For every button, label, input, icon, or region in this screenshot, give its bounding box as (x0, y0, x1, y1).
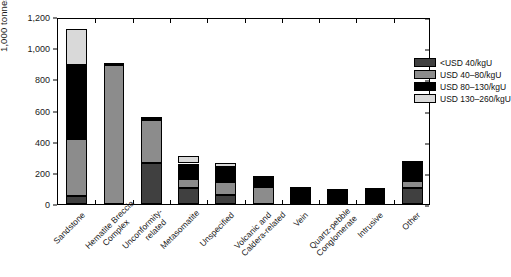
bar-segment (402, 188, 423, 204)
y-tick-label: 1,200 (6, 13, 50, 23)
x-axis-labels: SandstoneHematite BrecciaComplexUnconfor… (0, 206, 482, 277)
y-tick-mark-right (425, 19, 429, 20)
bar-1 (104, 63, 125, 204)
bar-7 (327, 190, 348, 204)
x-tick-mark-top (133, 19, 134, 23)
bar-segment (215, 195, 236, 204)
x-tick-mark-bottom (207, 200, 208, 204)
bar-0 (66, 29, 87, 204)
bar-segment (178, 188, 199, 204)
x-axis-label: Unconformity-related (120, 210, 168, 258)
x-tick-mark-top (95, 19, 96, 23)
bar-segment (365, 188, 386, 190)
y-tick-label: 800 (6, 75, 50, 85)
x-axis-label: Other (381, 210, 422, 251)
bar-segment (327, 189, 348, 191)
x-tick-mark-top (356, 19, 357, 23)
x-tick-mark-bottom (245, 200, 246, 204)
bar-segment (253, 187, 274, 204)
bar-segment (141, 117, 162, 120)
bar-segment (215, 182, 236, 195)
bar-segment (178, 164, 199, 180)
bar-segment (215, 167, 236, 183)
x-tick-mark-bottom (170, 200, 171, 204)
legend-swatch (414, 58, 436, 67)
legend-item: USD 80–130/kgU (414, 81, 415, 92)
y-tick-mark-right (425, 81, 429, 82)
plot-area: <USD 40/kgUUSD 40–80/kgUUSD 80–130/kgUUS… (57, 18, 430, 205)
x-tick-mark-bottom (95, 200, 96, 204)
bar-segment (215, 163, 236, 167)
bar-segment (66, 29, 87, 65)
bar-9 (402, 161, 423, 204)
y-tick-mark-right (425, 112, 429, 113)
bar-segment (66, 139, 87, 197)
bar-3 (178, 156, 199, 204)
bar-segment (365, 190, 386, 204)
x-tick-mark-top (282, 19, 283, 23)
y-tick-label: 1,000 (6, 44, 50, 54)
bar-2 (141, 117, 162, 204)
x-tick-mark-top (207, 19, 208, 23)
bar-segment (327, 191, 348, 204)
legend-label: USD 80–130/kgU (440, 82, 506, 92)
x-tick-mark-bottom (356, 200, 357, 204)
bar-segment (253, 176, 274, 178)
x-tick-mark-top (319, 19, 320, 23)
bar-segment (104, 63, 125, 65)
x-axis-label: Metasomatite (158, 210, 199, 251)
legend-swatch (414, 94, 436, 103)
bar-8 (365, 190, 386, 204)
x-axis-label: Sandstone (46, 210, 87, 251)
y-tick-mark-right (425, 143, 429, 144)
bar-6 (290, 187, 311, 204)
y-tick-label: 400 (6, 138, 50, 148)
bar-5 (253, 177, 274, 204)
x-axis-label-line: Unspecified (195, 210, 236, 251)
x-axis-label-line: Other (381, 210, 422, 251)
legend-label: USD 130–260/kgU (440, 94, 511, 104)
bar-segment (178, 156, 199, 163)
bar-segment (178, 179, 199, 188)
legend-item: USD 130–260/kgU (414, 93, 415, 104)
legend-swatch (414, 82, 436, 91)
y-axis-ticks: 02004006008001,0001,200 (0, 0, 57, 206)
x-tick-mark-bottom (282, 200, 283, 204)
x-tick-mark-top (394, 19, 395, 23)
bar-segment (141, 163, 162, 204)
x-axis-label: Unspecified (195, 210, 236, 251)
x-axis-label: Volcanic andCaldera-related (232, 210, 280, 258)
y-tick-label: 600 (6, 107, 50, 117)
bar-segment (402, 181, 423, 189)
x-tick-mark-bottom (394, 200, 395, 204)
bar-segment (66, 65, 87, 138)
y-tick-mark-right (425, 50, 429, 51)
bar-segment (290, 187, 311, 189)
bar-segment (402, 161, 423, 163)
bar-segment (253, 178, 274, 187)
x-axis-label-line: Metasomatite (158, 210, 199, 251)
y-tick-label: 200 (6, 169, 50, 179)
y-tick-mark-right (425, 174, 429, 175)
bar-segment (141, 120, 162, 163)
bar-group (58, 19, 429, 204)
bar-4 (215, 163, 236, 204)
bar-segment (66, 196, 87, 204)
x-axis-label-line: Sandstone (46, 210, 87, 251)
legend-label: USD 40–80/kgU (440, 70, 501, 80)
x-tick-mark-top (245, 19, 246, 23)
chart-legend: <USD 40/kgUUSD 40–80/kgUUSD 80–130/kgUUS… (414, 57, 415, 105)
bar-segment (402, 163, 423, 181)
x-axis-label: Quartz-pebbleConglomerate (307, 210, 355, 258)
legend-swatch (414, 70, 436, 79)
legend-item: <USD 40/kgU (414, 57, 415, 68)
x-tick-mark-bottom (319, 200, 320, 204)
x-tick-mark-top (170, 19, 171, 23)
bar-segment (104, 65, 125, 204)
legend-item: USD 40–80/kgU (414, 69, 415, 80)
bar-segment (290, 189, 311, 204)
legend-label: <USD 40/kgU (440, 58, 492, 68)
x-axis-label: Hematite BrecciaComplex (83, 210, 131, 258)
